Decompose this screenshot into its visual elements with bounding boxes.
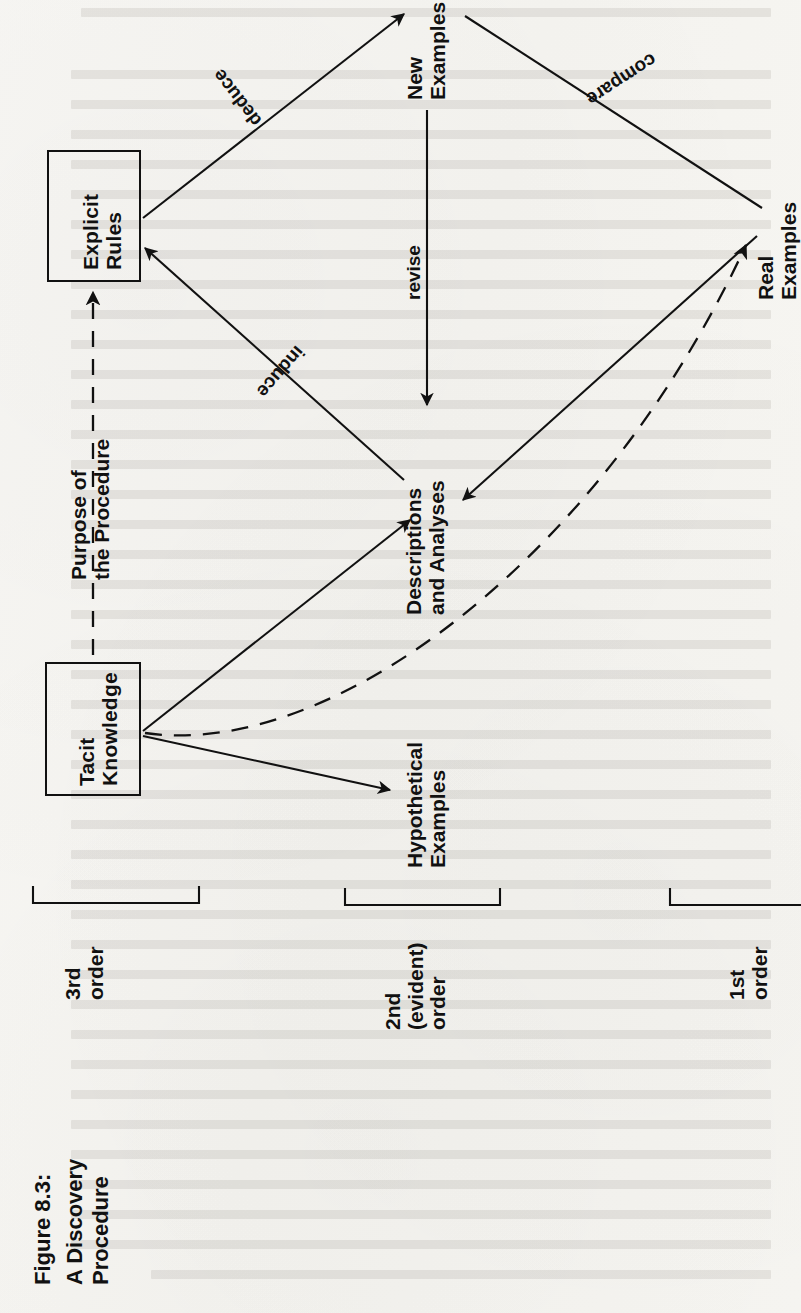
bracket-1st-order bbox=[670, 888, 801, 905]
bracket-label-2nd-order: 2nd (evident) order bbox=[382, 942, 450, 1030]
figure-caption-title: A Discovery Procedure bbox=[62, 1159, 114, 1285]
node-tacit-knowledge[interactable]: Tacit Knowledge bbox=[45, 662, 141, 796]
figure-caption-number: Figure 8.3: bbox=[30, 1174, 56, 1285]
node-hypothetical-label: Hypothetical Examples bbox=[404, 742, 449, 868]
node-descriptions-label: Descriptions and Analyses bbox=[403, 480, 448, 615]
node-tacit-knowledge-label: Tacit Knowledge bbox=[75, 672, 121, 786]
bracket-label-3rd-order: 3rd order bbox=[62, 946, 107, 1000]
node-real-examples-label: Real Examples bbox=[755, 202, 800, 300]
bracket-3rd-order bbox=[33, 886, 199, 903]
bracket-label-1st-order: 1st order bbox=[726, 946, 771, 1000]
edge-tacit-to-hypothetical bbox=[143, 736, 390, 790]
node-explicit-rules[interactable]: Explicit Rules bbox=[47, 150, 141, 282]
edge-compare bbox=[465, 16, 762, 208]
node-new-examples-label: New Examples bbox=[404, 2, 449, 100]
edge-tacit-to-descriptions bbox=[143, 520, 410, 731]
bracket-2nd-order bbox=[345, 888, 500, 905]
edge-real-to-descriptions bbox=[463, 236, 757, 500]
figure-page: New Examples --> Real Examples --> Descr… bbox=[0, 0, 801, 1313]
edge-label-purpose-of-the-procedure: Purpose of the Procedure bbox=[68, 439, 113, 580]
edge-deduce bbox=[143, 14, 404, 218]
edge-label-revise: revise bbox=[404, 245, 425, 300]
node-explicit-rules-label: Explicit Rules bbox=[79, 194, 125, 270]
